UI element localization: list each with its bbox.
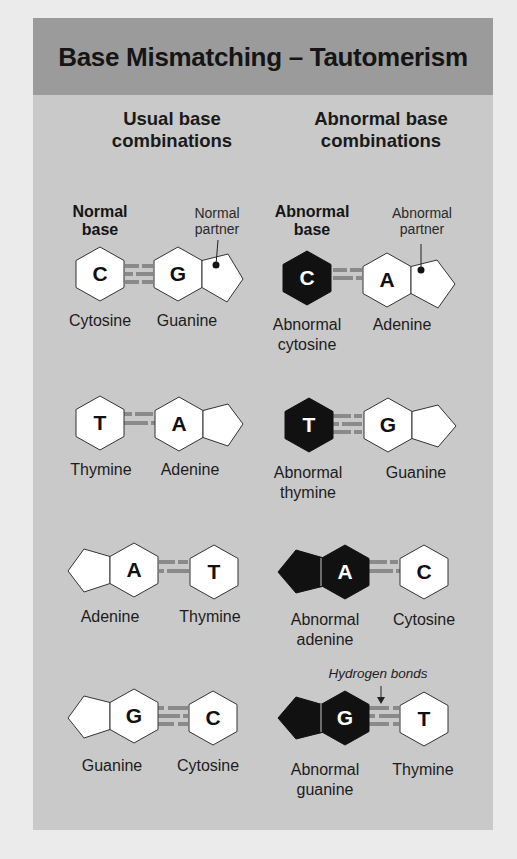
base-pairing-diagram xyxy=(0,0,517,859)
base-name-label: Guanine xyxy=(57,756,167,776)
abnormal-base-name-line: cytosine xyxy=(252,335,362,355)
base-name-label: Adenine xyxy=(55,607,165,627)
abnormal-base-name-line: adenine xyxy=(270,630,380,650)
arrow-down-icon xyxy=(377,686,385,704)
bond-icon xyxy=(159,560,189,573)
base-letter: C xyxy=(292,266,322,290)
bond-icon xyxy=(125,264,153,284)
abnormal-base-name-line: Abnormal xyxy=(270,610,380,630)
abnormal-base-name-line: Abnormal xyxy=(253,463,363,483)
base-letter: G xyxy=(330,706,360,730)
abnormal-base-name-line: Abnormal xyxy=(270,760,380,780)
abnormal-base-name-label: Abnormaladenine xyxy=(270,610,380,650)
base-letter: A xyxy=(164,412,194,436)
base-letter: G xyxy=(119,704,149,728)
abnormal-base-name-line: guanine xyxy=(270,780,380,800)
base-letter: T xyxy=(199,560,229,584)
base-letter: T xyxy=(85,411,115,435)
abnormal-base-name-label: Abnormalthymine xyxy=(253,463,363,503)
bond-icon xyxy=(158,706,188,726)
abnormal-base-name-label: Abnormalguanine xyxy=(270,760,380,800)
base-letter: G xyxy=(373,413,403,437)
base-name-label: Cytosine xyxy=(369,610,479,630)
base-letter: G xyxy=(163,262,193,286)
base-letter: A xyxy=(330,560,360,584)
abnormal-base-name-line: thymine xyxy=(253,483,363,503)
base-letter: C xyxy=(198,706,228,730)
base-name-label: Adenine xyxy=(135,460,245,480)
base-name-label: Guanine xyxy=(132,311,242,331)
base-letter: T xyxy=(294,413,324,437)
base-name-label: Thymine xyxy=(368,760,478,780)
base-letter: C xyxy=(409,560,439,584)
base-name-label: Guanine xyxy=(361,463,471,483)
abnormal-base-name-line: Abnormal xyxy=(252,315,362,335)
bond-icon xyxy=(333,414,362,434)
abnormal-base-name-label: Abnormalcytosine xyxy=(252,315,362,355)
base-letter: A xyxy=(119,558,149,582)
bond-icon xyxy=(369,560,400,573)
base-name-label: Adenine xyxy=(347,315,457,335)
base-letter: C xyxy=(85,262,115,286)
bond-icon xyxy=(369,706,399,726)
base-name-label: Thymine xyxy=(155,607,265,627)
base-letter: A xyxy=(372,268,402,292)
base-letter: T xyxy=(409,707,439,731)
bond-icon xyxy=(333,268,362,280)
bond-icon xyxy=(124,412,155,425)
base-name-label: Cytosine xyxy=(153,756,263,776)
